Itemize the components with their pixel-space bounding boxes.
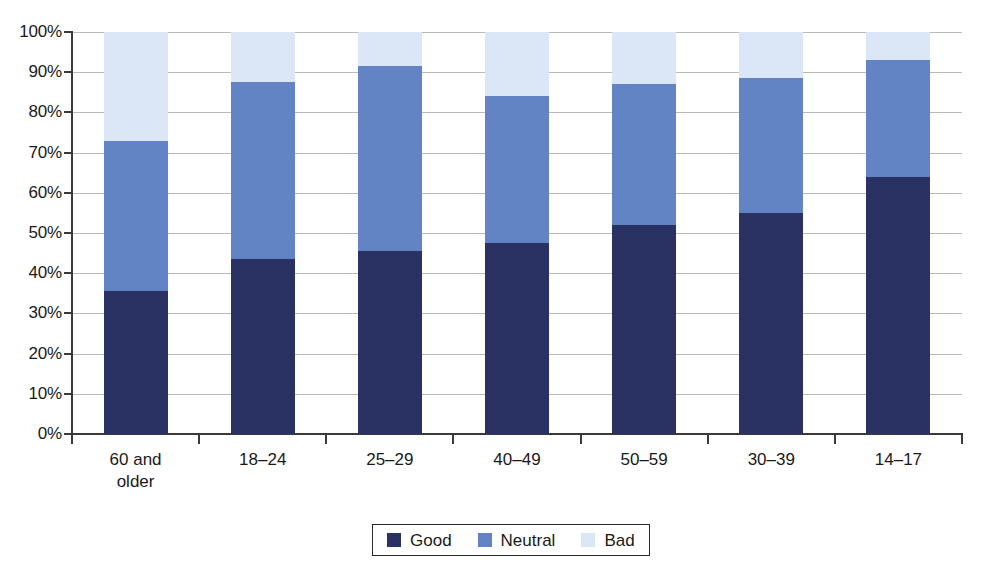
y-axis-tick-label: 70% — [6, 144, 62, 161]
bar-segment-neutral — [358, 66, 422, 251]
stacked-bar-chart: 100%90%80%70%60%50%40%30%20%10%0% 60 and… — [0, 0, 984, 585]
bar-column — [739, 32, 803, 434]
bar-segment-neutral — [866, 60, 930, 177]
x-axis-category-label: 14–17 — [823, 449, 973, 471]
chart-legend: GoodNeutralBad — [372, 524, 650, 556]
legend-item-label: Good — [410, 532, 452, 549]
x-axis-tick — [707, 435, 709, 444]
legend-item-label: Bad — [604, 532, 634, 549]
bar-segment-good — [358, 251, 422, 434]
bar-column — [104, 32, 168, 434]
y-axis-tick — [64, 71, 71, 73]
bar-segment-bad — [739, 32, 803, 78]
plot-area — [72, 32, 962, 434]
y-axis-tick-label: 0% — [6, 425, 62, 442]
y-axis-tick — [64, 353, 71, 355]
bar-column — [612, 32, 676, 434]
legend-item: Good — [387, 532, 452, 549]
y-axis-tick-label: 30% — [6, 304, 62, 321]
y-axis-tick-label: 40% — [6, 264, 62, 281]
y-axis-tick — [64, 111, 71, 113]
bar-segment-good — [485, 243, 549, 434]
x-axis-tick — [452, 435, 454, 444]
y-axis-tick-label: 20% — [6, 345, 62, 362]
legend-item: Bad — [581, 532, 634, 549]
bar-segment-bad — [358, 32, 422, 66]
y-axis-tick-label: 60% — [6, 184, 62, 201]
y-axis-tick — [64, 31, 71, 33]
y-axis-labels: 100%90%80%70%60%50%40%30%20%10%0% — [0, 0, 62, 585]
x-axis-tick — [198, 435, 200, 444]
bar-column — [358, 32, 422, 434]
y-axis-tick-label: 90% — [6, 63, 62, 80]
bar-segment-bad — [231, 32, 295, 82]
legend-item: Neutral — [478, 532, 556, 549]
y-axis-tick — [64, 192, 71, 194]
y-axis-tick — [64, 272, 71, 274]
y-axis-tick — [64, 152, 71, 154]
x-axis-tick — [71, 435, 73, 444]
legend-swatch-icon — [387, 533, 401, 547]
x-axis-tick — [580, 435, 582, 444]
bar-column — [866, 32, 930, 434]
y-axis-tick — [64, 393, 71, 395]
bar-segment-bad — [485, 32, 549, 96]
bar-segment-bad — [104, 32, 168, 141]
y-axis-tick — [64, 433, 71, 435]
bar-column — [231, 32, 295, 434]
y-axis-tick-label: 10% — [6, 385, 62, 402]
legend-item-label: Neutral — [501, 532, 556, 549]
legend-swatch-icon — [581, 533, 595, 547]
bar-segment-bad — [866, 32, 930, 60]
bar-segment-neutral — [231, 82, 295, 259]
bar-segment-neutral — [485, 96, 549, 243]
legend-swatch-icon — [478, 533, 492, 547]
bar-segment-good — [866, 177, 930, 434]
bar-segment-good — [231, 259, 295, 434]
bar-segment-neutral — [104, 141, 168, 292]
bar-segment-good — [104, 291, 168, 434]
x-axis-tick — [325, 435, 327, 444]
y-axis-tick — [64, 312, 71, 314]
bar-segment-neutral — [739, 78, 803, 213]
y-axis-tick-label: 100% — [6, 23, 62, 40]
x-axis-tick — [834, 435, 836, 444]
y-axis-tick-label: 80% — [6, 103, 62, 120]
x-axis-tick — [961, 435, 963, 444]
bar-segment-good — [739, 213, 803, 434]
bar-segment-good — [612, 225, 676, 434]
y-axis-tick — [64, 232, 71, 234]
bar-segment-bad — [612, 32, 676, 84]
bar-column — [485, 32, 549, 434]
y-axis-tick-label: 50% — [6, 224, 62, 241]
bar-segment-neutral — [612, 84, 676, 225]
